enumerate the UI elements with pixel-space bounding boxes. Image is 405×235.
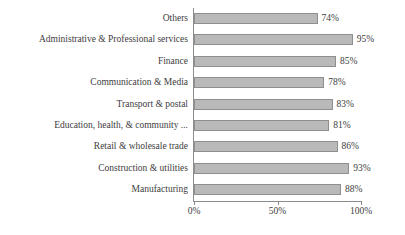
category-label: Finance [0, 51, 188, 72]
bar-container: 95% [194, 29, 405, 50]
bar-row: Manufacturing88% [0, 179, 405, 200]
bar-row: Retail & wholesale trade86% [0, 136, 405, 157]
bar [194, 56, 336, 67]
bar-container: 86% [194, 136, 405, 157]
bar-value-label: 93% [353, 158, 370, 179]
bar-value-label: 86% [342, 136, 359, 157]
bar [194, 120, 329, 131]
category-label: Transport & postal [0, 94, 188, 115]
bar-row: Administrative & Professional services95… [0, 29, 405, 50]
bar [194, 13, 318, 24]
bar-value-label: 81% [333, 115, 350, 136]
bar-row: Education, health, & community ...81% [0, 115, 405, 136]
category-label: Construction & utilities [0, 158, 188, 179]
category-label: Communication & Media [0, 72, 188, 93]
bar-container: 93% [194, 158, 405, 179]
bar [194, 99, 333, 110]
category-label: Others [0, 8, 188, 29]
bar-value-label: 95% [357, 29, 374, 50]
bar-container: 85% [194, 51, 405, 72]
bar-row: Construction & utilities93% [0, 158, 405, 179]
bar-row: Finance85% [0, 51, 405, 72]
category-label: Administrative & Professional services [0, 29, 188, 50]
x-tick-label: 100% [341, 206, 381, 216]
bar [194, 141, 338, 152]
bar-row: Communication & Media78% [0, 72, 405, 93]
category-label: Education, health, & community ... [0, 115, 188, 136]
x-tick-label: 50% [258, 206, 298, 216]
x-tick-mark [361, 201, 362, 205]
category-label: Manufacturing [0, 179, 188, 200]
bar-value-label: 74% [322, 8, 339, 29]
bar-container: 74% [194, 8, 405, 29]
bar [194, 34, 353, 45]
bar-value-label: 83% [337, 94, 354, 115]
bar [194, 163, 349, 174]
bar-row: Transport & postal83% [0, 94, 405, 115]
bar-value-label: 78% [328, 72, 345, 93]
bar [194, 77, 324, 88]
bar-container: 88% [194, 179, 405, 200]
bar-container: 83% [194, 94, 405, 115]
x-tick-mark [194, 201, 195, 205]
x-tick-mark [278, 201, 279, 205]
x-tick-label: 0% [174, 206, 214, 216]
category-label: Retail & wholesale trade [0, 136, 188, 157]
bar-value-label: 88% [345, 179, 362, 200]
bar-container: 81% [194, 115, 405, 136]
bar-row: Others74% [0, 8, 405, 29]
bar-value-label: 85% [340, 51, 357, 72]
bar-chart: Others74%Administrative & Professional s… [0, 0, 405, 235]
bar-container: 78% [194, 72, 405, 93]
bar [194, 184, 341, 195]
